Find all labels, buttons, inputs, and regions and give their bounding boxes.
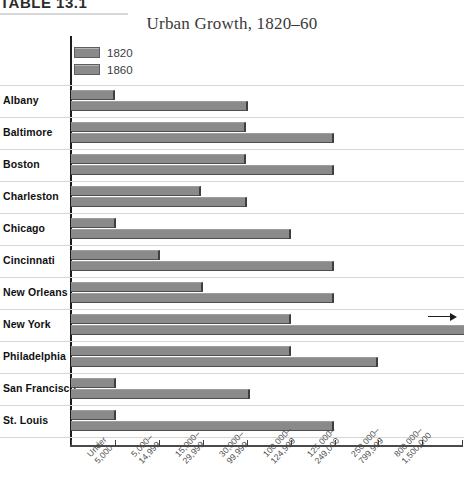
chart-row: Chicago xyxy=(0,213,464,245)
chart-row: Cincinnati xyxy=(0,245,464,277)
chart-row: New York xyxy=(0,309,464,341)
bar-1860 xyxy=(71,421,334,431)
legend-label-1860: 1860 xyxy=(107,64,133,76)
city-label: Albany xyxy=(3,94,39,106)
bar-1860 xyxy=(71,357,378,367)
city-label: New Orleans xyxy=(3,286,68,298)
legend-swatch-1860 xyxy=(74,64,100,75)
city-label: Charleston xyxy=(3,190,59,202)
row-separator xyxy=(0,373,464,374)
bar-1860 xyxy=(71,389,250,399)
legend-swatch-1820 xyxy=(74,47,100,58)
bar-1820 xyxy=(71,346,291,356)
row-separator xyxy=(0,181,464,182)
chart-legend: 1820 1860 xyxy=(74,45,133,79)
chart-row: New Orleans xyxy=(0,277,464,309)
city-label: Baltimore xyxy=(3,126,52,138)
row-separator xyxy=(0,309,464,310)
chart-row: Albany xyxy=(0,85,464,117)
city-label: New York xyxy=(3,318,51,330)
chart-plot-area: 1820 1860 AlbanyBaltimoreBostonCharlesto… xyxy=(0,0,464,497)
city-label: Philadelphia xyxy=(3,350,66,362)
bar-1820 xyxy=(71,186,201,196)
bar-1860 xyxy=(71,101,248,111)
chart-row: Charleston xyxy=(0,181,464,213)
x-tick xyxy=(115,440,116,447)
row-separator xyxy=(0,405,464,406)
bar-1820 xyxy=(71,250,160,260)
x-tick xyxy=(462,440,463,447)
bar-1820 xyxy=(71,218,116,228)
row-separator xyxy=(0,85,464,86)
legend-label-1820: 1820 xyxy=(107,47,133,59)
chart-row: St. Louis xyxy=(0,405,464,437)
bar-1820 xyxy=(71,410,116,420)
row-separator xyxy=(0,277,464,278)
row-separator xyxy=(0,149,464,150)
city-label: St. Louis xyxy=(3,414,48,426)
bar-1820 xyxy=(71,314,291,324)
chart-row: San Francisco xyxy=(0,373,464,405)
city-label: San Francisco xyxy=(3,382,76,394)
city-label: Cincinnati xyxy=(3,254,55,266)
bar-1860 xyxy=(71,165,334,175)
row-separator xyxy=(0,341,464,342)
legend-item-1860: 1860 xyxy=(74,62,133,77)
bar-1860 xyxy=(71,197,247,207)
city-label: Boston xyxy=(3,158,40,170)
bar-1820 xyxy=(71,154,246,164)
bar-1860 xyxy=(71,293,334,303)
bar-1860 xyxy=(71,325,464,335)
row-separator xyxy=(0,117,464,118)
bar-1860 xyxy=(71,261,334,271)
bar-1820 xyxy=(71,282,203,292)
row-separator xyxy=(0,245,464,246)
legend-item-1820: 1820 xyxy=(74,45,133,60)
city-label: Chicago xyxy=(3,222,45,234)
bar-1820 xyxy=(71,378,116,388)
bar-1860 xyxy=(71,229,291,239)
chart-row: Baltimore xyxy=(0,117,464,149)
row-separator xyxy=(0,213,464,214)
chart-row: Boston xyxy=(0,149,464,181)
chart-row: Philadelphia xyxy=(0,341,464,373)
x-tick xyxy=(71,440,72,447)
bar-1860 xyxy=(71,133,334,143)
bar-1820 xyxy=(71,90,115,100)
bar-1820 xyxy=(71,122,246,132)
arrow-right-icon xyxy=(428,312,458,321)
